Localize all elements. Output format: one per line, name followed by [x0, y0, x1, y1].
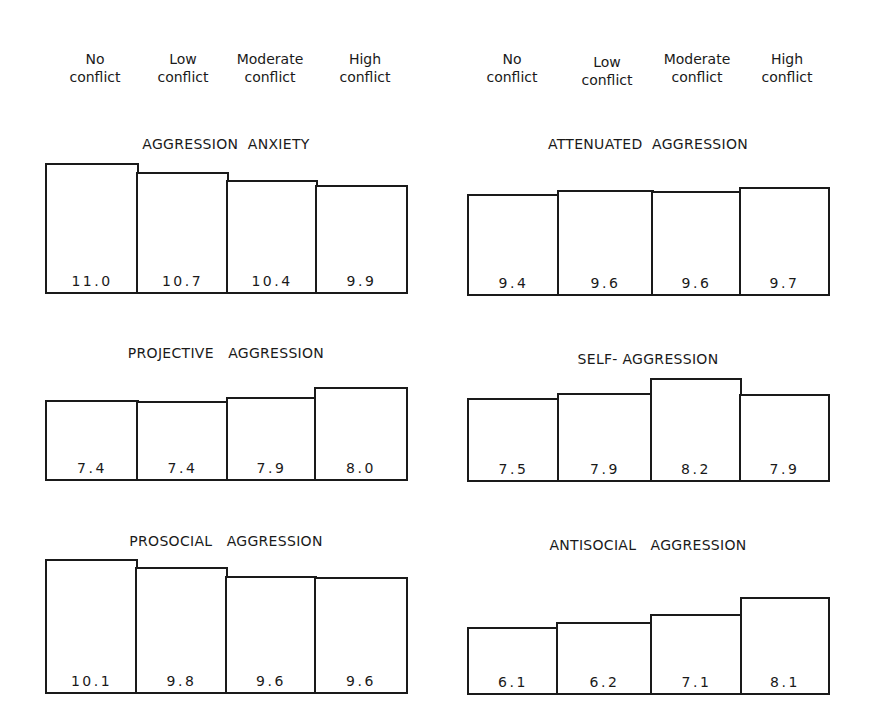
header-line: High [325, 50, 405, 68]
bar-value: 8.1 [742, 674, 828, 690]
chart-title-prosocial-aggression: PROSOCIAL AGGRESSION [45, 533, 407, 549]
bar-value: 7.9 [741, 461, 828, 477]
column-header-high-conflict: High conflict [325, 50, 405, 86]
bar-value: 9.7 [741, 275, 828, 291]
bar-value: 6.2 [558, 674, 651, 690]
header-line: Low [566, 53, 648, 71]
bar-value: 6.1 [469, 674, 557, 690]
bar-high-conflict: 9.9 [315, 185, 408, 294]
bar-value: 9.6 [559, 275, 652, 291]
bar-value: 7.9 [559, 461, 651, 477]
header-line: conflict [472, 68, 552, 86]
header-line: conflict [325, 68, 405, 86]
column-header-no-conflict-right: No conflict [472, 50, 552, 86]
column-header-no-conflict: No conflict [55, 50, 135, 86]
bar-value: 10.7 [138, 273, 227, 289]
bar-no-conflict: 11.0 [45, 163, 139, 294]
bar-moderate-conflict: 9.6 [225, 576, 317, 694]
header-line: conflict [142, 68, 224, 86]
bar-high-conflict: 8.1 [740, 597, 830, 695]
bar-low-conflict: 10.7 [136, 172, 229, 294]
bar-low-conflict: 9.6 [557, 190, 654, 296]
header-line: conflict [55, 68, 135, 86]
column-header-high-conflict-right: High conflict [747, 50, 827, 86]
bar-no-conflict: 6.1 [467, 627, 559, 695]
bar-value: 9.6 [227, 673, 315, 689]
bar-low-conflict: 7.4 [136, 401, 229, 481]
header-line: conflict [225, 68, 315, 86]
bar-value: 9.6 [653, 275, 740, 291]
header-line: conflict [566, 71, 648, 89]
bar-value: 11.0 [47, 273, 137, 289]
bar-low-conflict: 9.8 [135, 567, 228, 694]
bar-moderate-conflict: 9.6 [651, 191, 742, 296]
bar-value: 9.4 [469, 275, 558, 291]
bar-high-conflict: 9.6 [314, 577, 408, 694]
bar-value: 8.0 [316, 460, 406, 476]
column-header-low-conflict-right: Low conflict [566, 53, 648, 89]
bar-high-conflict: 8.0 [314, 387, 408, 481]
column-header-low-conflict: Low conflict [142, 50, 224, 86]
chart-title-projective-aggression: PROJECTIVE AGGRESSION [45, 345, 407, 361]
bar-value: 7.1 [652, 674, 741, 690]
chart-title-attenuated-aggression: ATTENUATED AGGRESSION [467, 136, 829, 152]
bar-value: 7.5 [469, 461, 558, 477]
bar-moderate-conflict: 7.9 [226, 397, 317, 481]
bar-value: 9.6 [316, 673, 406, 689]
bar-high-conflict: 7.9 [739, 394, 830, 482]
bar-moderate-conflict: 10.4 [226, 180, 318, 294]
bar-value: 10.1 [47, 673, 136, 689]
bar-value: 7.4 [138, 460, 227, 476]
bar-value: 9.9 [317, 273, 406, 289]
chart-title-antisocial-aggression: ANTISOCIAL AGGRESSION [467, 537, 829, 553]
bar-value: 7.9 [228, 460, 315, 476]
bar-high-conflict: 9.7 [739, 187, 830, 296]
header-line: Low [142, 50, 224, 68]
header-line: Moderate [225, 50, 315, 68]
chart-title-self-aggression: SELF- AGGRESSION [467, 351, 829, 367]
header-line: No [55, 50, 135, 68]
column-header-moderate-conflict-right: Moderate conflict [652, 50, 742, 86]
bar-no-conflict: 7.5 [467, 398, 560, 482]
bar-value: 7.4 [47, 460, 137, 476]
header-line: Moderate [652, 50, 742, 68]
bar-value: 10.4 [228, 273, 316, 289]
chart-title-aggression-anxiety: AGGRESSION ANXIETY [45, 136, 407, 152]
header-line: No [472, 50, 552, 68]
column-header-moderate-conflict: Moderate conflict [225, 50, 315, 86]
header-line: conflict [652, 68, 742, 86]
bar-moderate-conflict: 7.1 [650, 614, 743, 695]
bar-value: 9.8 [137, 673, 226, 689]
bar-no-conflict: 9.4 [467, 194, 560, 296]
bar-no-conflict: 7.4 [45, 400, 139, 481]
bar-low-conflict: 6.2 [556, 622, 653, 695]
bar-value: 8.2 [652, 461, 740, 477]
bar-no-conflict: 10.1 [45, 559, 138, 694]
bar-low-conflict: 7.9 [557, 393, 653, 482]
header-line: conflict [747, 68, 827, 86]
header-line: High [747, 50, 827, 68]
bar-moderate-conflict: 8.2 [650, 378, 742, 482]
